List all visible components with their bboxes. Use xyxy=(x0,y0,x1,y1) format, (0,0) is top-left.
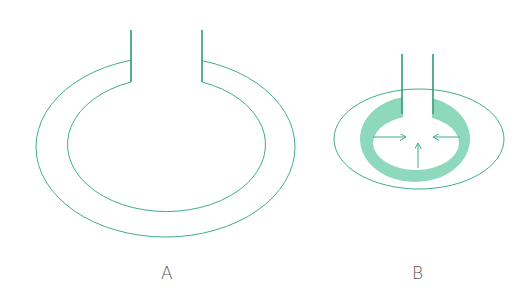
figure-a-outer-wall xyxy=(36,57,295,237)
figure-a xyxy=(36,30,295,237)
diagram-canvas xyxy=(0,0,529,302)
figure-a-label: A xyxy=(161,265,173,282)
figure-b xyxy=(334,54,504,189)
figure-a-inner-wall xyxy=(68,82,266,212)
figure-b-label: B xyxy=(412,265,423,282)
figure-b-tube-interior xyxy=(403,96,432,118)
